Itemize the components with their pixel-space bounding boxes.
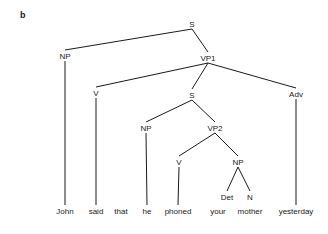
edge-vp1-s1 — [192, 63, 208, 89]
edge-vp1-adv — [208, 63, 296, 88]
edge-vp2-np2 — [215, 133, 238, 156]
word-your: your — [210, 207, 226, 216]
node-s: S — [189, 91, 194, 100]
node-np: NP — [140, 124, 151, 133]
word-that: that — [114, 207, 128, 216]
node-np: NP — [59, 52, 70, 61]
leaf-edge-phoned — [178, 167, 179, 205]
tree-edges — [65, 29, 296, 205]
node-adv: Adv — [289, 90, 303, 99]
edge-s0-np0 — [65, 29, 192, 50]
word-phoned: phoned — [165, 207, 192, 216]
edge-s1-vp2 — [192, 100, 215, 122]
edge-vp1-v0 — [96, 63, 208, 87]
leaf-edge-he — [146, 133, 147, 205]
node-np: NP — [232, 158, 243, 167]
edge-np2-det — [227, 167, 238, 191]
edge-s1-np1 — [146, 100, 192, 122]
word-said: said — [89, 207, 104, 216]
edge-np2-n — [238, 167, 250, 191]
word-John: John — [56, 207, 73, 216]
edge-vp2-v1 — [179, 133, 215, 156]
word-he: he — [143, 207, 152, 216]
node-v: V — [176, 158, 182, 167]
panel-label: b — [20, 10, 26, 20]
node-vp2: VP2 — [207, 124, 223, 133]
node-vp1: VP1 — [200, 54, 216, 63]
syntax-tree-diagram: b SNPVP1VSAdvNPVP2VNPDetN Johnsaidthathe… — [0, 0, 328, 234]
word-mother: mother — [238, 207, 263, 216]
sentence-words: Johnsaidthathephonedyourmotheryesterday — [56, 207, 313, 216]
node-det: Det — [221, 193, 234, 202]
word-yesterday: yesterday — [279, 207, 314, 216]
node-n: N — [247, 193, 253, 202]
node-s: S — [189, 20, 194, 29]
node-v: V — [93, 89, 99, 98]
edge-s0-vp1 — [192, 29, 208, 52]
